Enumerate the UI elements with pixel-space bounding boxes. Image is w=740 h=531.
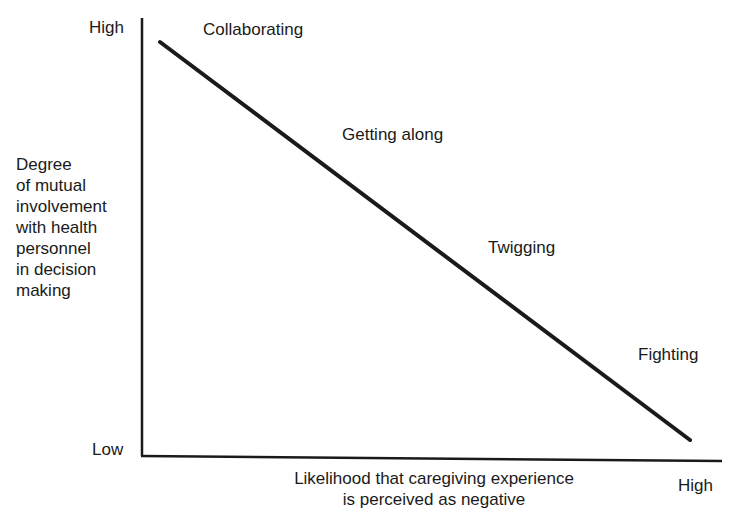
y-axis-label: Degree of mutual involvement with health… [16, 154, 107, 301]
y-tick-low: Low [92, 440, 123, 460]
annotation-getting-along: Getting along [342, 125, 443, 145]
annotation-collaborating: Collaborating [203, 20, 303, 40]
x-tick-high: High [678, 476, 713, 496]
annotation-twigging: Twigging [488, 238, 555, 258]
x-axis-label: Likelihood that caregiving experience is… [258, 468, 610, 510]
trend-line [160, 42, 690, 440]
x-axis [141, 456, 722, 461]
annotation-fighting: Fighting [638, 345, 698, 365]
y-tick-high: High [89, 18, 124, 38]
